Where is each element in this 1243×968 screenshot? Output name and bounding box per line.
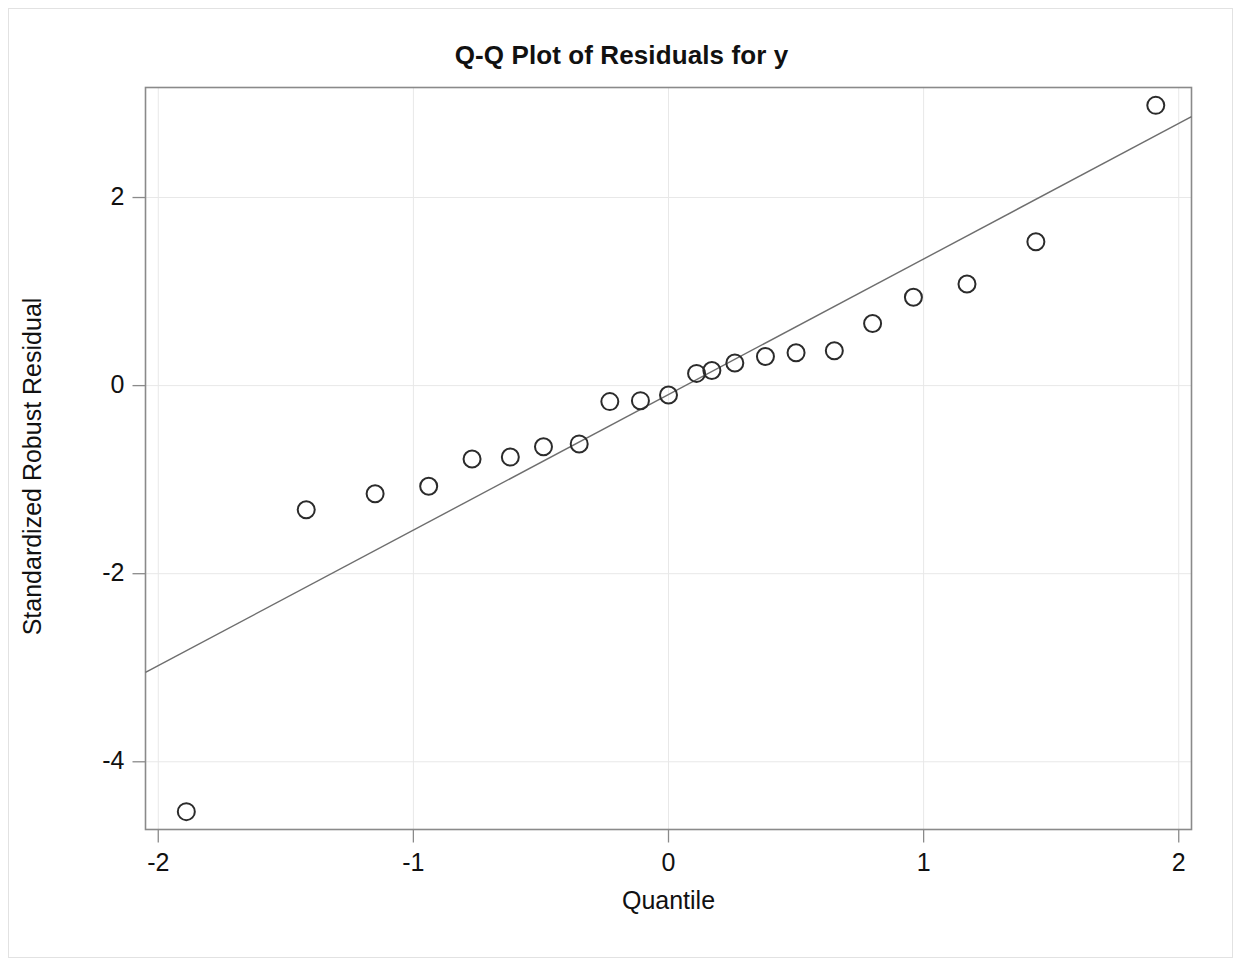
x-tick-label: -2 (128, 848, 188, 877)
y-tick-label: -2 (65, 558, 125, 587)
data-point (464, 450, 481, 467)
data-point (178, 803, 195, 820)
data-points (178, 97, 1164, 820)
y-tick-label: 0 (65, 370, 125, 399)
x-tick-label: -1 (383, 848, 443, 877)
y-tick-label: -4 (65, 746, 125, 775)
axis-ticks (133, 198, 1179, 843)
data-point (905, 289, 922, 306)
data-point (1027, 233, 1044, 250)
data-point (632, 392, 649, 409)
plot-canvas (0, 0, 1243, 968)
data-point (535, 438, 552, 455)
data-point (757, 348, 774, 365)
y-tick-label: 2 (65, 182, 125, 211)
data-point (788, 344, 805, 361)
data-point (958, 276, 975, 293)
data-point (298, 501, 315, 518)
data-point (864, 315, 881, 332)
data-point (703, 362, 720, 379)
x-tick-label: 2 (1149, 848, 1209, 877)
x-tick-label: 0 (639, 848, 699, 877)
x-tick-label: 1 (894, 848, 954, 877)
data-point (420, 478, 437, 495)
gridlines (146, 88, 1192, 830)
data-point (601, 393, 618, 410)
data-point (571, 435, 588, 452)
data-point (367, 485, 384, 502)
data-point (826, 342, 843, 359)
data-point (502, 449, 519, 466)
qq-plot-figure: Q-Q Plot of Residuals for y Standardized… (0, 0, 1243, 968)
data-point (1147, 97, 1164, 114)
